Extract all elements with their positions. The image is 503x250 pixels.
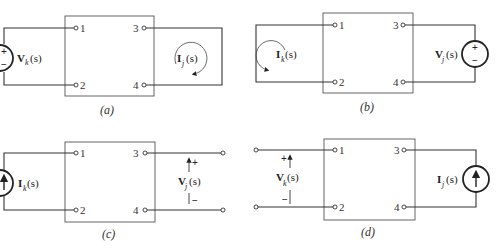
wire-top-left — [4, 153, 74, 170]
terminal-3-label: 3 — [393, 19, 399, 31]
terminal-2-label: 2 — [339, 76, 345, 88]
source-label: I — [18, 177, 22, 189]
terminal-2-icon — [74, 83, 78, 87]
current-source-icon — [0, 170, 13, 196]
terminal-4-label: 4 — [394, 201, 400, 213]
response-arg: (s) — [285, 48, 297, 61]
terminal-1-label: 1 — [339, 19, 345, 31]
source-subscript: j — [441, 55, 445, 64]
terminal-4-icon — [401, 80, 405, 84]
terminal-4-label: 4 — [393, 76, 399, 88]
plus-sign: + — [1, 46, 7, 57]
source-arg: (s) — [446, 48, 458, 61]
plus-sign: + — [192, 157, 198, 168]
panel-d: + − V k (s) 1 2 3 4 I j (s) (d) — [254, 139, 489, 239]
plus-sign: + — [281, 153, 287, 164]
terminal-4-icon — [142, 83, 146, 87]
terminal-1-label: 1 — [80, 147, 86, 159]
minus-sign: − — [1, 59, 7, 70]
wire-bottom-right — [405, 67, 475, 82]
source-label: V — [17, 52, 25, 64]
minus-sign: − — [192, 195, 198, 206]
terminal-3-label: 3 — [133, 147, 139, 159]
terminal-1-icon — [74, 26, 78, 30]
terminal-2-icon — [74, 208, 78, 212]
open-terminal-icon — [221, 208, 225, 212]
terminal-2-label: 2 — [80, 79, 86, 91]
terminal-1-icon — [333, 148, 337, 152]
terminal-4-label: 4 — [133, 204, 139, 216]
terminal-2-label: 2 — [80, 204, 86, 216]
source-arg: (s) — [30, 52, 42, 65]
open-terminal-icon — [254, 205, 258, 209]
terminal-1-label: 1 — [80, 22, 86, 34]
terminal-3-label: 3 — [133, 22, 139, 34]
source-arg: (s) — [446, 173, 458, 186]
terminal-2-icon — [333, 205, 337, 209]
response-arg: (s) — [287, 171, 299, 184]
panel-b: I k (s) 1 2 3 4 + − V j (s) (b) — [256, 13, 488, 114]
terminal-1-icon — [333, 23, 337, 27]
terminal-3-label: 3 — [394, 144, 400, 156]
terminal-4-label: 4 — [133, 79, 139, 91]
minus-sign: − — [282, 194, 288, 205]
minus-sign: − — [472, 55, 478, 66]
wire-bottom-left — [4, 196, 74, 210]
caption-c: (c) — [102, 227, 115, 241]
source-subscript: j — [441, 180, 445, 189]
terminal-3-icon — [142, 26, 146, 30]
source-label: I — [437, 173, 441, 185]
terminal-2-label: 2 — [339, 201, 345, 213]
panel-c: I k (s) 1 2 3 4 + − V j (s) (c) — [0, 142, 225, 241]
response-subscript: j — [181, 59, 185, 68]
two-port-box — [65, 142, 155, 222]
caption-a: (a) — [100, 103, 114, 117]
wire-top-right — [406, 150, 476, 166]
short-circuit-loop — [146, 28, 222, 85]
response-subscript: j — [184, 182, 188, 191]
open-terminal-icon — [221, 151, 225, 155]
terminal-3-icon — [143, 151, 147, 155]
response-label: I — [276, 48, 280, 60]
wire-top-right — [405, 25, 475, 41]
terminal-3-icon — [401, 23, 405, 27]
response-label: I — [177, 52, 181, 64]
response-arg: (s) — [186, 52, 198, 65]
terminal-1-label: 1 — [339, 144, 345, 156]
wire-top-left — [4, 28, 74, 44]
terminal-4-icon — [143, 208, 147, 212]
two-port-box — [324, 139, 415, 220]
caption-b: (b) — [360, 100, 374, 114]
caption-d: (d) — [361, 225, 375, 239]
wire-bottom-left — [4, 72, 74, 85]
wire-bottom-right — [406, 192, 476, 207]
source-arg: (s) — [27, 177, 39, 190]
panel-a: + − V k (s) 1 2 3 4 I j (s) (a) — [0, 16, 222, 117]
terminal-2-icon — [333, 80, 337, 84]
terminal-3-icon — [402, 148, 406, 152]
terminal-1-icon — [74, 151, 78, 155]
source-subscript: k — [25, 58, 29, 67]
plus-sign: + — [472, 42, 478, 53]
response-arg: (s) — [189, 175, 201, 188]
reciprocity-diagram: + − V k (s) 1 2 3 4 I j (s) (a) I k (s) … — [0, 0, 503, 250]
terminal-4-icon — [402, 205, 406, 209]
open-terminal-icon — [254, 148, 258, 152]
